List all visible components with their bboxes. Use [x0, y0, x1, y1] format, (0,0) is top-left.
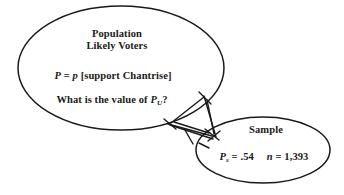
sample-ellipse — [196, 117, 330, 183]
statistics-venn-diagram: Population Likely Voters P = p [support … — [0, 0, 344, 195]
population-ellipse — [18, 6, 224, 130]
diagram-canvas — [0, 0, 344, 195]
arrow-connector — [164, 92, 220, 148]
